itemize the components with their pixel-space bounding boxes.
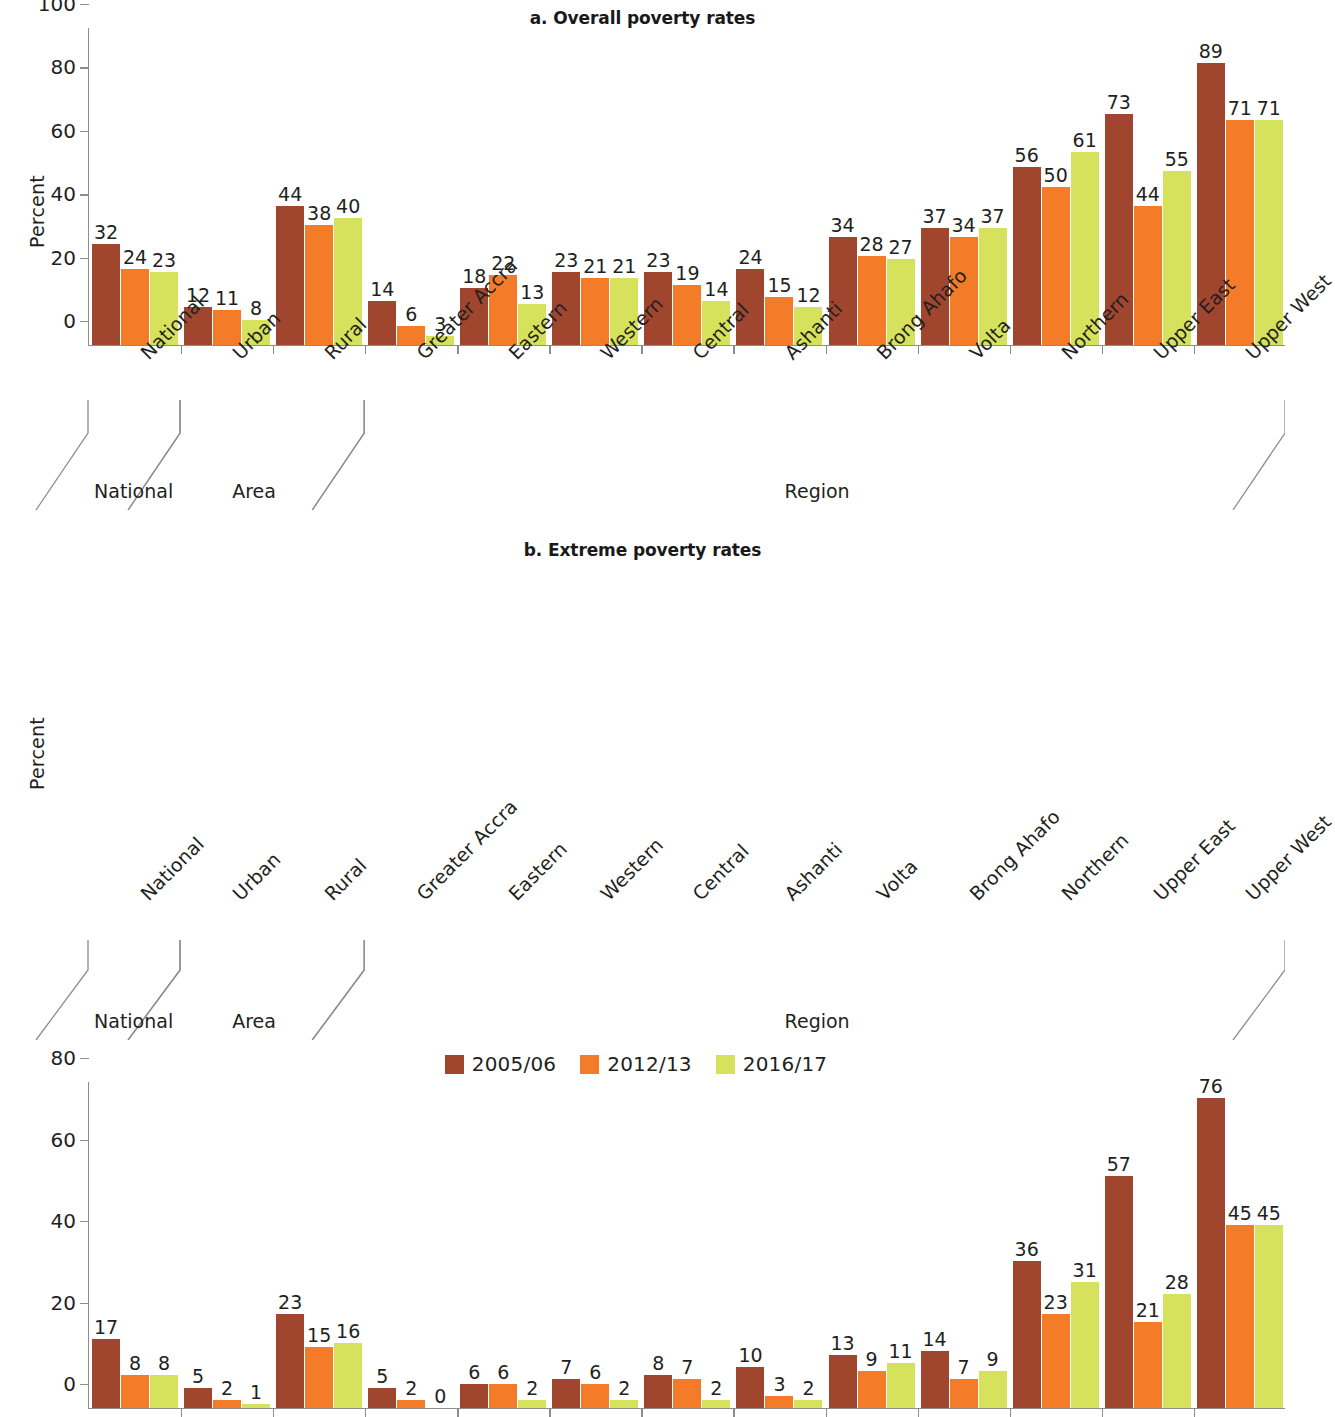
bar-group: 1788 bbox=[89, 1082, 181, 1408]
bar-value-label: 27 bbox=[888, 238, 912, 257]
x-axis-tick bbox=[1102, 345, 1103, 354]
bar-value-label: 45 bbox=[1257, 1204, 1281, 1223]
bar: 14 bbox=[921, 1351, 949, 1408]
bar: 15 bbox=[305, 1347, 333, 1408]
bar-value-label: 15 bbox=[307, 1326, 331, 1345]
bar-group: 1479 bbox=[918, 1082, 1010, 1408]
bar-value-label: 14 bbox=[923, 1330, 947, 1349]
bar: 36 bbox=[1013, 1261, 1041, 1408]
x-axis-tick bbox=[1010, 345, 1011, 354]
bar: 31 bbox=[1071, 1282, 1099, 1408]
bracket-lines bbox=[0, 940, 1285, 1040]
legend-item: 2012/13 bbox=[580, 1052, 692, 1076]
bar-group: 1032 bbox=[733, 1082, 825, 1408]
legend-label: 2005/06 bbox=[472, 1052, 557, 1076]
legend-swatch-icon bbox=[716, 1055, 735, 1074]
bar-group: 443840 bbox=[273, 28, 365, 345]
bar-value-label: 34 bbox=[952, 216, 976, 235]
x-axis-tick bbox=[549, 345, 550, 354]
y-axis-tick-label: 60 bbox=[51, 119, 89, 143]
bar: 9 bbox=[979, 1371, 1007, 1408]
x-axis-tick bbox=[1194, 345, 1195, 354]
bar: 21 bbox=[1134, 1322, 1162, 1408]
legend-label: 2012/13 bbox=[607, 1052, 692, 1076]
bar: 38 bbox=[305, 225, 333, 345]
bar-value-label: 21 bbox=[612, 257, 636, 276]
group-bracket-label: National bbox=[94, 1010, 173, 1032]
bar-value-label: 34 bbox=[830, 216, 854, 235]
panel-b-plot-area: 0204060801788521231516520662762872103213… bbox=[88, 1082, 1285, 1409]
bar-value-label: 1 bbox=[250, 1383, 262, 1402]
bar: 50 bbox=[1042, 187, 1070, 346]
bar: 24 bbox=[121, 269, 149, 345]
bar-value-label: 24 bbox=[738, 248, 762, 267]
bar-value-label: 2 bbox=[802, 1379, 814, 1398]
bar-triplet: 520 bbox=[368, 1082, 454, 1408]
bar-triplet: 13911 bbox=[829, 1082, 915, 1408]
bar-value-label: 9 bbox=[987, 1350, 999, 1369]
y-axis-tick-label: 100 bbox=[38, 0, 89, 16]
bar: 32 bbox=[92, 244, 120, 345]
bar-group: 231516 bbox=[273, 1082, 365, 1408]
bar-value-label: 28 bbox=[859, 235, 883, 254]
x-axis-tick bbox=[1010, 1408, 1011, 1417]
x-axis-tick bbox=[826, 345, 827, 354]
bar: 2 bbox=[794, 1400, 822, 1408]
bar-triplet: 342827 bbox=[829, 28, 915, 345]
bar-value-label: 0 bbox=[434, 1387, 446, 1406]
y-axis-tick-label: 20 bbox=[51, 246, 89, 270]
bar-value-label: 9 bbox=[865, 1350, 877, 1369]
x-axis-tick bbox=[365, 1408, 366, 1417]
bar-value-label: 36 bbox=[1015, 1240, 1039, 1259]
bar-value-label: 61 bbox=[1073, 131, 1097, 150]
bar-value-label: 10 bbox=[738, 1346, 762, 1365]
bar: 44 bbox=[1134, 206, 1162, 345]
bar-triplet: 241512 bbox=[736, 28, 822, 345]
bar: 21 bbox=[581, 278, 609, 345]
panel-a-category-labels: NationalUrbanRuralGreater AccraEasternWe… bbox=[88, 348, 1285, 349]
bar: 5 bbox=[184, 1388, 212, 1408]
legend-swatch-icon bbox=[580, 1055, 599, 1074]
bar-group: 520 bbox=[365, 1082, 457, 1408]
bar-triplet: 232121 bbox=[552, 28, 638, 345]
panel-a-group-brackets: NationalAreaRegion bbox=[0, 400, 1285, 520]
panel-a-title: a. Overall poverty rates bbox=[0, 8, 1285, 28]
bar-group: 521 bbox=[181, 1082, 273, 1408]
bar-group: 241512 bbox=[733, 28, 825, 345]
y-axis-tick-label: 0 bbox=[63, 1372, 89, 1396]
bar-triplet: 1788 bbox=[92, 1082, 178, 1408]
bar: 5 bbox=[368, 1388, 396, 1408]
legend-item: 2016/17 bbox=[716, 1052, 828, 1076]
bar-value-label: 7 bbox=[958, 1358, 970, 1377]
bar-value-label: 7 bbox=[681, 1358, 693, 1377]
bar: 16 bbox=[334, 1343, 362, 1408]
bar-group: 232121 bbox=[549, 28, 641, 345]
bar: 8 bbox=[644, 1375, 672, 1408]
bar: 17 bbox=[92, 1339, 120, 1408]
bar-value-label: 7 bbox=[560, 1358, 572, 1377]
bar: 14 bbox=[368, 301, 396, 345]
bar-group: 342827 bbox=[826, 28, 918, 345]
bar-value-label: 17 bbox=[94, 1318, 118, 1337]
bar-value-label: 12 bbox=[796, 286, 820, 305]
bar: 8 bbox=[150, 1375, 178, 1408]
bar-value-label: 11 bbox=[888, 1342, 912, 1361]
panel-a-y-axis-label: Percent bbox=[26, 175, 48, 248]
bar-groups: 1788521231516520662762872103213911147936… bbox=[89, 1082, 1285, 1408]
bar-value-label: 71 bbox=[1257, 99, 1281, 118]
bar: 28 bbox=[858, 256, 886, 345]
bar-value-label: 15 bbox=[767, 276, 791, 295]
x-axis-tick bbox=[918, 345, 919, 354]
panel-b-title: b. Extreme poverty rates bbox=[0, 540, 1285, 560]
bar: 7 bbox=[552, 1379, 580, 1408]
bar-group: 572128 bbox=[1102, 1082, 1194, 1408]
bar-triplet: 1463 bbox=[368, 28, 454, 345]
bar-value-label: 14 bbox=[370, 280, 394, 299]
bar-triplet: 362331 bbox=[1013, 1082, 1099, 1408]
bar-value-label: 32 bbox=[94, 223, 118, 242]
bar: 2 bbox=[610, 1400, 638, 1408]
x-axis-tick bbox=[181, 1408, 182, 1417]
x-axis-tick bbox=[365, 345, 366, 354]
bar: 13 bbox=[829, 1355, 857, 1408]
bar: 6 bbox=[489, 1384, 517, 1408]
